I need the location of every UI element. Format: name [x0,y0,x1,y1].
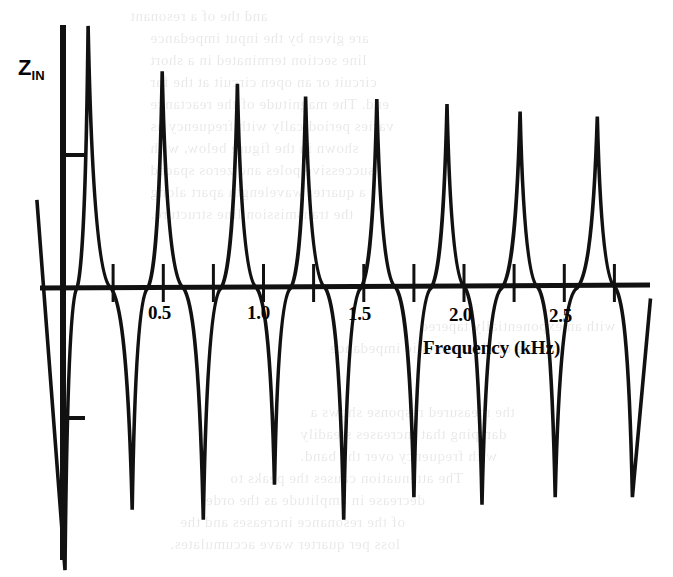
y-axis-label: ZIN [18,55,45,83]
x-axis-line [40,285,650,288]
x-tick-label-1.0: 1.0 [247,302,270,324]
x-tick-label-1.5: 1.5 [348,303,371,325]
x-tick-label-0.5: 0.5 [148,302,171,324]
impedance-vs-frequency-plot [0,0,673,577]
x-tick-label-2.5: 2.5 [549,305,572,327]
impedance-curve [37,26,651,570]
y-axis-label-subscript: IN [31,68,44,83]
x-tick-label-2.0: 2.0 [449,304,472,326]
x-axis-title: Frequency (kHz) [423,337,560,359]
y-axis-label-main: Z [18,55,31,80]
figure-canvas: and the of a resonantare given by the in… [0,0,673,577]
impedance-trace [37,26,651,570]
